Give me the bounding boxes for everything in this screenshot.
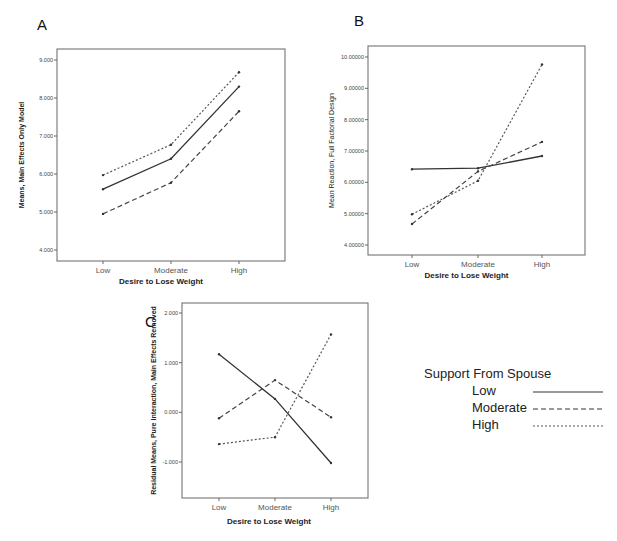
y-tick-label: 6.00000	[344, 179, 364, 185]
data-point	[238, 85, 240, 87]
legend-title: Support From Spouse	[424, 366, 551, 381]
y-tick-label: 7.000	[39, 133, 53, 139]
plot-frame	[368, 46, 585, 255]
data-point	[170, 158, 172, 160]
data-point	[102, 188, 104, 190]
data-point	[411, 223, 413, 225]
data-point	[477, 167, 479, 169]
y-tick-label: 5.000	[39, 209, 53, 215]
series-line-moderate	[103, 111, 239, 214]
data-point	[330, 462, 332, 464]
legend-label-high: High	[472, 417, 499, 432]
y-tick-label: -1.000	[162, 459, 178, 465]
series-line-high	[219, 334, 331, 444]
data-point	[330, 333, 332, 335]
series-line-high	[412, 65, 542, 215]
legend-label-low: Low	[472, 383, 496, 398]
data-point	[477, 180, 479, 182]
x-tick-label: Low	[96, 266, 111, 275]
y-axis-label: Residual Means, Pure Interaction, Main E…	[150, 306, 158, 495]
series-line-low	[219, 354, 331, 463]
x-axis-label: Desire to Lose Weight	[425, 271, 509, 280]
y-tick-label: 0.000	[164, 409, 178, 415]
x-tick-label: Low	[405, 260, 420, 269]
data-point	[274, 398, 276, 400]
y-tick-label: 4.00000	[344, 242, 364, 248]
y-tick-label: 9.000	[39, 57, 53, 63]
panel-letter: A	[37, 16, 47, 33]
data-point	[238, 71, 240, 73]
legend: Support From Spouse Low Moderate High	[424, 366, 603, 432]
series-line-low	[412, 156, 542, 169]
plot-frame	[57, 49, 285, 261]
data-point	[170, 144, 172, 146]
series-line-moderate	[412, 142, 542, 224]
x-tick-label: High	[534, 260, 550, 269]
y-tick-label: 8.00000	[344, 117, 364, 123]
panel-letter: B	[354, 12, 364, 29]
data-point	[411, 168, 413, 170]
data-point	[218, 353, 220, 355]
data-point	[238, 110, 240, 112]
x-axis-label: Desire to Lose Weight	[227, 517, 311, 526]
data-point	[102, 174, 104, 176]
data-point	[477, 170, 479, 172]
y-tick-label: 6.000	[39, 171, 53, 177]
data-point	[102, 213, 104, 215]
x-tick-label: High	[323, 503, 339, 512]
x-tick-label: High	[231, 266, 247, 275]
data-point	[170, 182, 172, 184]
x-axis-label: Desire to Lose Weight	[119, 277, 203, 286]
legend-label-moderate: Moderate	[472, 400, 527, 415]
data-point	[541, 155, 543, 157]
data-point	[218, 443, 220, 445]
y-tick-label: 7.00000	[344, 148, 364, 154]
chart-panel-b: B4.000005.000006.000007.000008.000009.00…	[328, 12, 585, 280]
data-point	[274, 436, 276, 438]
y-axis-label: Means, Main Effects Only Model	[18, 102, 26, 209]
y-tick-label: 8.000	[39, 95, 53, 101]
data-point	[411, 213, 413, 215]
x-tick-label: Moderate	[154, 266, 188, 275]
data-point	[274, 379, 276, 381]
data-point	[541, 63, 543, 65]
x-tick-label: Moderate	[461, 260, 495, 269]
chart-panel-c: C-1.0000.0001.0002.000LowModerateHighDes…	[145, 303, 368, 526]
x-tick-label: Moderate	[258, 503, 292, 512]
plot-frame	[182, 303, 368, 498]
y-tick-label: 2.000	[164, 310, 178, 316]
series-line-low	[103, 87, 239, 190]
x-tick-label: Low	[212, 503, 227, 512]
y-tick-label: 9.00000	[344, 85, 364, 91]
data-point	[541, 141, 543, 143]
y-tick-label: 1.000	[164, 360, 178, 366]
y-tick-label: 5.00000	[344, 211, 364, 217]
y-tick-label: 10.00000	[341, 54, 364, 60]
y-axis-label: Mean Reaction, Full Factorial Design	[328, 93, 336, 208]
y-tick-label: 4.000	[39, 247, 53, 253]
data-point	[218, 417, 220, 419]
chart-panel-a: A4.0005.0006.0007.0008.0009.000LowModera…	[18, 16, 285, 286]
data-point	[330, 416, 332, 418]
figure-canvas: A4.0005.0006.0007.0008.0009.000LowModera…	[0, 0, 617, 541]
